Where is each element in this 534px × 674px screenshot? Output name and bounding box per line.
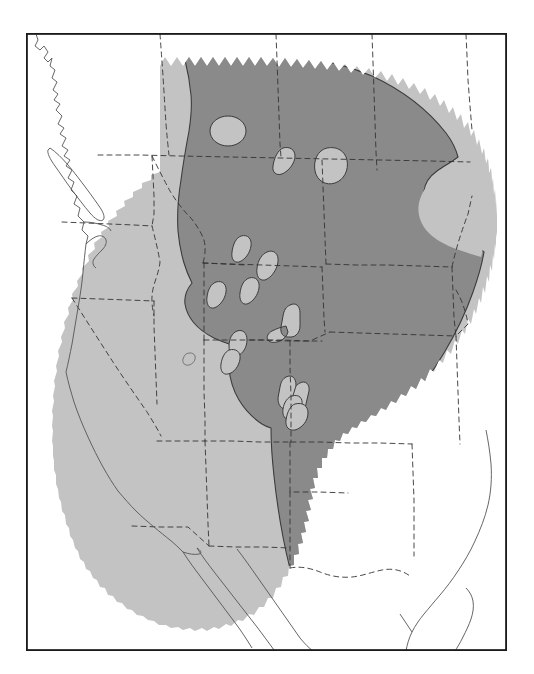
figure-root: Western North America xyxy=(0,0,534,674)
range-map-figure xyxy=(0,0,534,674)
range-gap-1 xyxy=(210,116,246,146)
map-svg xyxy=(0,0,534,674)
range-gap-3 xyxy=(315,148,348,184)
